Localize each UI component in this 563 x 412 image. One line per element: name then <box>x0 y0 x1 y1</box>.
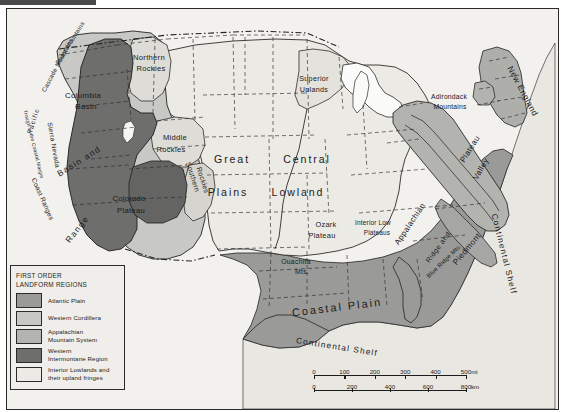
map-label-adirondack-mountains-2: Mountains <box>433 103 466 110</box>
map-label-sierra-nevada: Sierra Nevada <box>47 122 62 169</box>
scale-tick-label: 500 <box>461 368 471 375</box>
scale-kilometers-rule <box>314 390 466 395</box>
scale-tick-label: 300 <box>400 368 410 375</box>
map-label-new-england: New England <box>506 64 541 118</box>
map-label-continental-shelf-atlantic: Continental Shelf <box>490 213 519 295</box>
scale-tick-mark <box>344 375 345 379</box>
scale-tick-mark <box>390 388 391 392</box>
map-label-northern-rockies: Northern <box>133 53 165 62</box>
scale-tick-mark <box>466 375 467 379</box>
map-label-coast-ranges: Coast Ranges <box>31 177 56 221</box>
map-label-appalachian: Appalachian <box>393 201 428 246</box>
map-label-central-lowland: Central <box>283 153 330 165</box>
map-legend: FIRST ORDER LANDFORM REGIONS Atlantic Pl… <box>10 265 125 390</box>
map-label-central-lowland-2: Lowland <box>272 186 325 198</box>
legend-swatch <box>16 348 42 363</box>
map-label-ozark-plateau: Ozark <box>315 220 336 229</box>
scale-tick-mark <box>314 375 315 379</box>
legend-item: WesternIntermontane Region <box>16 347 120 363</box>
map-label-ozark-plateau-2: Plateau <box>308 231 335 240</box>
legend-items: Atlantic PlainWestern CordilleraAppalach… <box>16 293 120 382</box>
scale-tick-label: 400 <box>430 368 440 375</box>
legend-item: Atlantic Plain <box>16 293 120 308</box>
map-label-ouachita-mts: Ouachita <box>281 258 311 265</box>
scale-tick-mark <box>428 388 429 392</box>
map-label-superior-uplands: Superior <box>299 74 329 83</box>
legend-label: WesternIntermontane Region <box>48 347 108 363</box>
scale-unit-label: mi <box>471 368 478 375</box>
map-label-great-plains: Great <box>214 153 250 165</box>
map-label-interior-low-plateaus: Interior Low <box>355 219 391 226</box>
map-label-range: Range <box>63 213 90 244</box>
map-label-adirondack-mountains: Adirondack <box>431 93 467 100</box>
legend-swatch <box>16 311 42 326</box>
scale-unit-label: km <box>471 383 479 390</box>
legend-item: AppalachianMountain System <box>16 328 120 344</box>
legend-swatch <box>16 329 42 344</box>
map-label-colorado-plateau-2: Plateau <box>117 206 145 215</box>
scale-tick-mark <box>375 375 376 379</box>
map-label-columbia-basin: Columbia <box>65 91 101 100</box>
legend-title-line2: LANDFORM REGIONS <box>16 280 120 289</box>
map-label-ouachita-mts-2: Mts. <box>295 268 309 275</box>
legend-item: Interior Lowlands andtheir upland fringe… <box>16 366 120 382</box>
scale-bar: 0100200300400500mi 0200400600800km <box>314 366 466 395</box>
map-label-appalachian-plateau: Plateau <box>458 134 481 164</box>
map-label-valley: Valley <box>471 157 491 182</box>
map-label-great-plains-2: Plains <box>208 186 248 198</box>
scale-tick-mark <box>436 375 437 379</box>
legend-title-line1: FIRST ORDER <box>16 271 120 280</box>
map-label-continental-shelf-gulf: Continental Shelf <box>295 336 378 358</box>
scale-tick-mark <box>352 388 353 392</box>
map-screenshot: PacificCoast MountainsCascade MountainsC… <box>0 0 563 412</box>
map-label-middle-rockies-2: Rockies <box>156 145 185 154</box>
map-label-northern-rockies-2: Rockies <box>136 64 165 73</box>
legend-title: FIRST ORDER LANDFORM REGIONS <box>16 271 120 290</box>
legend-swatch <box>16 367 42 382</box>
legend-swatch <box>16 293 42 308</box>
map-plate: PacificCoast MountainsCascade MountainsC… <box>6 8 559 410</box>
scale-tick-mark <box>466 388 467 392</box>
scale-tick-mark <box>314 388 315 392</box>
map-label-columbia-basin-2: Basin <box>75 102 97 111</box>
scale-tick-label: 200 <box>370 368 380 375</box>
map-label-interior-low-plateaus-2: Plateaus <box>364 229 390 236</box>
scan-top-bar <box>0 0 96 5</box>
map-label-middle-rockies: Middle <box>163 133 187 142</box>
scale-tick-label: 100 <box>339 368 349 375</box>
legend-label: Interior Lowlands andtheir upland fringe… <box>48 366 109 382</box>
scale-tick-label: 0 <box>312 368 315 375</box>
map-label-basin-and: Basin and <box>55 144 103 179</box>
scale-miles-labels: 0100200300400500mi <box>314 366 466 375</box>
map-label-cascade-mountains: Cascade Mountains <box>40 37 74 93</box>
legend-label: Western Cordillera <box>48 314 101 322</box>
map-label-superior-uplands-2: Uplands <box>300 85 328 94</box>
map-label-coastal-plain: Coastal Plain <box>291 296 383 319</box>
legend-label: Atlantic Plain <box>48 297 85 305</box>
legend-label: AppalachianMountain System <box>48 328 97 344</box>
legend-item: Western Cordillera <box>16 311 120 326</box>
scale-tick-mark <box>405 375 406 379</box>
map-label-colorado-plateau: Colorado <box>112 194 145 203</box>
